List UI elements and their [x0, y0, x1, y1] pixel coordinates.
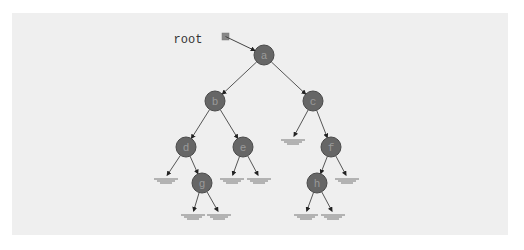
tree-diagram: abcdefgh root [0, 0, 524, 250]
node-label: a [261, 50, 268, 62]
null-marker-icon [181, 215, 205, 219]
edge-c-null-c-left [294, 110, 308, 136]
root-pointer: root [174, 33, 255, 51]
nodes-layer: abcdefgh [176, 45, 341, 193]
edge-f-h [321, 156, 328, 173]
edge-d-g [190, 156, 198, 174]
edge-b-d [191, 109, 209, 138]
null-marker-icon [247, 179, 271, 183]
tree-node-f: f [321, 137, 341, 157]
tree-node-d: d [176, 137, 196, 157]
node-label: d [183, 142, 190, 154]
edge-a-c [271, 62, 305, 94]
edge-d-null-d-left [167, 155, 180, 175]
null-marker-icon [321, 215, 345, 219]
node-label: e [240, 142, 247, 154]
node-label: b [212, 96, 219, 108]
tree-node-h: h [307, 173, 327, 193]
root-pointer-arrow [226, 37, 255, 51]
edge-e-null-e-left [233, 156, 240, 175]
tree-node-a: a [254, 45, 274, 65]
edge-c-f [317, 110, 328, 137]
edge-b-e [220, 110, 238, 139]
tree-node-g: g [192, 173, 212, 193]
edge-h-null-h-left [307, 192, 314, 211]
edge-g-null-g-right [207, 192, 218, 212]
null-marker-icon [294, 215, 318, 219]
null-marker-icon [220, 179, 244, 183]
tree-node-b: b [205, 91, 225, 111]
edge-e-null-e-right [248, 156, 258, 175]
node-label: g [199, 178, 206, 190]
node-label: h [314, 178, 321, 190]
tree-node-e: e [233, 137, 253, 157]
null-marker-icon [335, 179, 359, 183]
root-label: root [174, 33, 203, 47]
node-label: c [310, 96, 317, 108]
null-marker-icon [281, 140, 305, 144]
null-marker-icon [207, 215, 231, 219]
edge-a-b [222, 62, 256, 94]
edge-g-null-g-left [194, 193, 200, 212]
null-marker-icon [154, 179, 178, 183]
edge-h-null-h-right [322, 192, 332, 211]
tree-node-c: c [303, 91, 323, 111]
edge-f-null-f-right [336, 156, 346, 175]
node-label: f [328, 142, 335, 154]
